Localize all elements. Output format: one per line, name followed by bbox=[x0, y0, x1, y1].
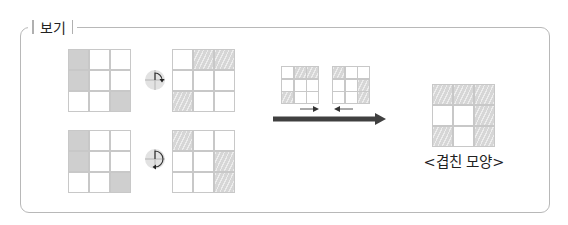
grid-cell-empty bbox=[454, 127, 473, 146]
grid-cell-empty bbox=[69, 92, 88, 111]
overlapped-result-grid bbox=[432, 84, 495, 147]
grid-cell-empty bbox=[333, 80, 344, 91]
grid-cell-hatch bbox=[333, 67, 344, 78]
grid-cell-solid bbox=[69, 152, 88, 171]
grid-cell-empty bbox=[454, 106, 473, 125]
grid-cell-hatch bbox=[475, 106, 494, 125]
grid-cell-empty bbox=[282, 67, 293, 78]
grid-cell-hatch bbox=[173, 131, 192, 150]
grid-cell-empty bbox=[215, 131, 234, 150]
grid-cell-solid bbox=[69, 131, 88, 150]
arrow-left-icon bbox=[333, 105, 353, 113]
grid-cell-empty bbox=[194, 71, 213, 90]
grid-cell-empty bbox=[173, 71, 192, 90]
grid-cell-empty bbox=[215, 92, 234, 111]
grid-cell-hatch bbox=[454, 85, 473, 104]
grid-cell-empty bbox=[173, 173, 192, 192]
grid-cell-solid bbox=[69, 71, 88, 90]
grid-cell-hatch bbox=[358, 80, 369, 91]
grid-cell-empty bbox=[307, 80, 318, 91]
grid-cell-empty bbox=[307, 92, 318, 103]
grid-cell-empty bbox=[194, 131, 213, 150]
grid-cell-empty bbox=[433, 106, 452, 125]
grid-cell-hatch bbox=[307, 67, 318, 78]
grid-cell-hatch bbox=[194, 50, 213, 69]
grid-cell-empty bbox=[346, 67, 357, 78]
grid-cell-empty bbox=[215, 71, 234, 90]
grid-cell-hatch bbox=[215, 152, 234, 171]
grid-cell-empty bbox=[333, 92, 344, 103]
grid-cell-empty bbox=[90, 50, 109, 69]
grid-cell-empty bbox=[173, 152, 192, 171]
grid-cell-hatch bbox=[433, 85, 452, 104]
grid-cell-hatch bbox=[358, 92, 369, 103]
grid-cell-empty bbox=[111, 71, 130, 90]
grid-cell-empty bbox=[194, 152, 213, 171]
grid-cell-empty bbox=[173, 50, 192, 69]
grid-cell-empty bbox=[346, 80, 357, 91]
original-grid-2 bbox=[68, 130, 131, 193]
grid-cell-empty bbox=[194, 173, 213, 192]
grid-cell-empty bbox=[69, 173, 88, 192]
rotated-grid-2 bbox=[172, 130, 235, 193]
grid-cell-empty bbox=[194, 92, 213, 111]
grid-cell-empty bbox=[90, 152, 109, 171]
original-grid-1 bbox=[68, 49, 131, 112]
rotate-clockwise-180-icon bbox=[144, 148, 166, 170]
grid-cell-solid bbox=[69, 50, 88, 69]
grid-cell-solid bbox=[111, 173, 130, 192]
grid-cell-hatch bbox=[475, 85, 494, 104]
grid-cell-empty bbox=[358, 67, 369, 78]
legend-bar-right bbox=[72, 20, 74, 34]
grid-cell-hatch bbox=[433, 127, 452, 146]
grid-cell-solid bbox=[111, 92, 130, 111]
grid-cell-empty bbox=[111, 50, 130, 69]
grid-cell-empty bbox=[346, 92, 357, 103]
grid-cell-empty bbox=[282, 80, 293, 91]
grid-cell-hatch bbox=[215, 173, 234, 192]
grid-cell-empty bbox=[295, 92, 306, 103]
thick-arrow-right-icon bbox=[273, 113, 387, 125]
legend-label: 보기 bbox=[34, 17, 72, 37]
grid-cell-hatch bbox=[295, 67, 306, 78]
grid-cell-empty bbox=[90, 92, 109, 111]
grid-cell-hatch bbox=[173, 92, 192, 111]
grid-cell-empty bbox=[90, 131, 109, 150]
grid-cell-empty bbox=[111, 152, 130, 171]
grid-cell-empty bbox=[90, 173, 109, 192]
grid-cell-empty bbox=[90, 71, 109, 90]
overlap-right-grid bbox=[332, 66, 370, 104]
overlap-left-grid bbox=[281, 66, 319, 104]
rotated-grid-1 bbox=[172, 49, 235, 112]
grid-cell-hatch bbox=[215, 50, 234, 69]
grid-cell-hatch bbox=[282, 92, 293, 103]
grid-cell-empty bbox=[295, 80, 306, 91]
legend: 보기 bbox=[28, 14, 77, 40]
rotate-clockwise-90-icon bbox=[144, 69, 166, 91]
arrow-right-icon bbox=[300, 105, 320, 113]
grid-cell-hatch bbox=[475, 127, 494, 146]
result-caption: <겹친 모양> bbox=[416, 150, 512, 171]
grid-cell-empty bbox=[111, 131, 130, 150]
